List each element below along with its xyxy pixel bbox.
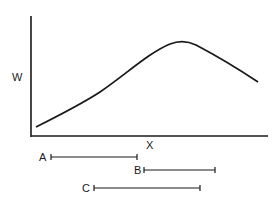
curve <box>36 41 258 127</box>
interval-b: B <box>134 164 215 176</box>
interval-b-label: B <box>134 164 141 176</box>
interval-c: C <box>82 182 200 194</box>
interval-c-label: C <box>82 182 90 194</box>
y-axis-label: W <box>12 71 23 83</box>
interval-a: A <box>39 151 137 163</box>
diagram: W X A B C <box>0 0 277 201</box>
x-axis-label: X <box>146 139 154 151</box>
interval-a-label: A <box>39 151 47 163</box>
